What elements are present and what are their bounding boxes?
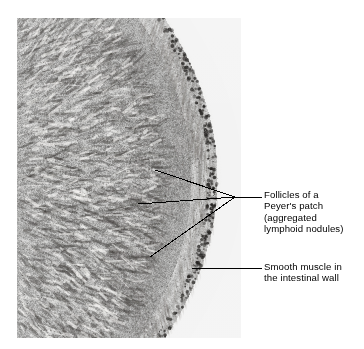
label-smooth-muscle-line-2: the intestinal wall xyxy=(264,272,342,283)
label-smooth-muscle-line-1: Smooth muscle in xyxy=(264,261,342,272)
histology-figure: Follicles of aPeyer's patch(aggregatedly… xyxy=(0,0,364,349)
intestine-peyers-patch-micrograph xyxy=(17,18,241,338)
label-follicles-line-4: lymphoid nodules) xyxy=(264,223,344,234)
label-smooth-muscle: Smooth muscle inthe intestinal wall xyxy=(264,261,342,284)
micrograph-image xyxy=(17,18,241,338)
label-follicles-line-2: Peyer's patch xyxy=(264,200,344,211)
label-follicles: Follicles of aPeyer's patch(aggregatedly… xyxy=(264,189,344,235)
label-follicles-line-1: Follicles of a xyxy=(264,189,344,200)
label-follicles-line-3: (aggregated xyxy=(264,212,344,223)
